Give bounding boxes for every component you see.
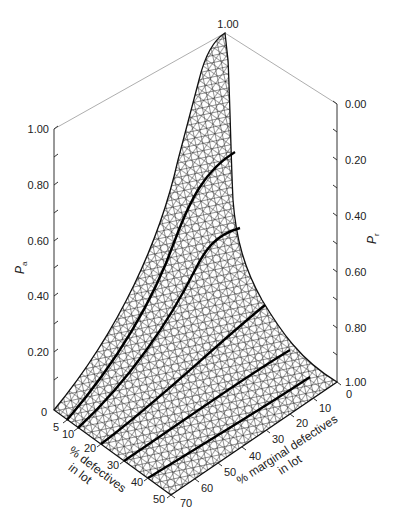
- marginal-tick-label: 60: [201, 482, 213, 494]
- pr-tick-label: 0.40: [345, 210, 366, 222]
- marginal-tick-label: 0: [346, 388, 352, 400]
- defectives-tick-label: 40: [131, 476, 143, 488]
- pa-pr-surface-chart: 1.00 0.80 0.60 0.40 0.20 0 P a 0.00 0.20…: [0, 0, 397, 508]
- pa-tick-label: 0.20: [28, 346, 49, 358]
- defectives-tick-label: 50: [153, 493, 165, 505]
- apex-label: 1.00: [217, 18, 238, 30]
- pr-tick-label: 0.20: [345, 154, 366, 166]
- pa-tick-label: 0: [41, 406, 47, 418]
- svg-text:P: P: [13, 266, 27, 274]
- pa-tick-label: 0.80: [28, 179, 49, 191]
- svg-text:r: r: [372, 233, 381, 236]
- pr-tick-label: 1.00: [345, 376, 366, 388]
- pr-tick-label: 0.60: [345, 266, 366, 278]
- pa-tick-label: 0.40: [28, 290, 49, 302]
- marginal-tick-label: 10: [319, 402, 331, 414]
- svg-text:a: a: [20, 261, 29, 266]
- pa-axis: 1.00 0.80 0.60 0.40 0.20 0 P a: [13, 123, 58, 418]
- marginal-tick-label: 70: [180, 497, 192, 508]
- defectives-tick-label: 10: [62, 428, 74, 440]
- marginal-tick-label: 30: [272, 433, 284, 445]
- pr-axis: 0.00 0.20 0.40 0.60 0.80 1.00 P r: [333, 98, 381, 388]
- marginal-tick-label: 20: [296, 417, 308, 429]
- pa-axis-title: P a: [13, 261, 29, 274]
- pr-tick-label: 0.80: [345, 322, 366, 334]
- pr-axis-title: P r: [365, 233, 381, 244]
- pa-surface: [54, 33, 337, 495]
- pa-tick-label: 1.00: [28, 123, 49, 135]
- svg-text:P: P: [365, 236, 379, 244]
- defectives-tick-label: 5: [53, 421, 59, 433]
- pa-tick-label: 0.60: [28, 235, 49, 247]
- pr-tick-label: 0.00: [345, 98, 366, 110]
